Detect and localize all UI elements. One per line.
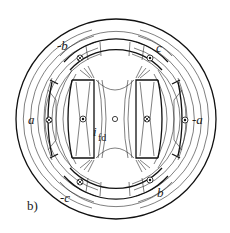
conductor-neg-b-cross <box>77 55 83 61</box>
conductor-c-dot <box>147 55 153 61</box>
label-b: b <box>157 185 164 200</box>
machine-diagram: a -a -b c -c b i fd b) <box>0 0 230 233</box>
label-field-current-subscript: fd <box>98 132 106 143</box>
label-field-current: i <box>93 124 97 139</box>
label-c: c <box>156 40 162 55</box>
rotor-conductor-left-dot <box>80 116 86 122</box>
panel-label: b) <box>27 198 38 213</box>
label-neg-b: -b <box>57 38 68 53</box>
label-neg-c: -c <box>60 190 70 205</box>
label-neg-a: -a <box>192 112 203 127</box>
conductor-neg-a-dot <box>182 117 188 123</box>
shaft-circle <box>112 116 117 121</box>
conductor-neg-c-cross <box>77 179 83 185</box>
conductor-a-cross <box>46 117 52 123</box>
label-a: a <box>28 112 35 127</box>
rotor-conductor-right-cross <box>144 116 150 122</box>
stator-slot-right <box>172 80 182 158</box>
conductor-b-dot <box>147 177 153 183</box>
stator-band-bottom <box>60 168 172 207</box>
